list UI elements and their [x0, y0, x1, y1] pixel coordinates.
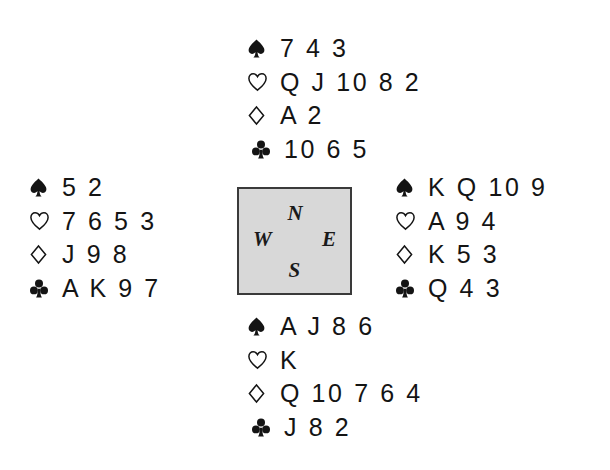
hand-north: 7 4 3 Q J 10 8 2 A 2 [248, 32, 421, 166]
hand-west-diamonds-row: J 9 8 [30, 238, 161, 272]
hand-north-diamonds: A 2 [278, 103, 324, 128]
hand-east-spades: K Q 10 9 [426, 175, 547, 200]
compass-letter-east: E [322, 229, 336, 250]
hand-west-hearts-row: 7 6 5 3 [30, 205, 161, 239]
hand-north-hearts-row: Q J 10 8 2 [248, 66, 421, 100]
heart-icon [248, 73, 278, 91]
compass-letter-south: S [288, 260, 300, 281]
hand-north-diamonds-row: A 2 [248, 99, 421, 133]
club-icon [252, 418, 282, 437]
club-icon [30, 279, 60, 298]
hand-south: A J 8 6 K Q 10 7 6 4 [248, 310, 423, 444]
spade-icon [248, 39, 278, 58]
compass-letter-west: W [253, 229, 272, 250]
hand-east-clubs: Q 4 3 [426, 276, 502, 301]
heart-icon [396, 212, 426, 230]
hand-south-diamonds-row: Q 10 7 6 4 [248, 377, 423, 411]
hand-west-diamonds: J 9 8 [60, 242, 129, 267]
hand-east-diamonds: K 5 3 [426, 242, 499, 267]
hand-south-spades: A J 8 6 [278, 314, 375, 339]
heart-icon [248, 351, 278, 369]
diamond-icon [248, 384, 278, 403]
hand-east-hearts-row: A 9 4 [396, 205, 547, 239]
hand-west-spades: 5 2 [60, 175, 105, 200]
club-icon [396, 279, 426, 298]
hand-north-clubs: 10 6 5 [282, 137, 369, 162]
hand-east-diamonds-row: K 5 3 [396, 238, 547, 272]
diamond-icon [248, 106, 278, 125]
hand-west-hearts: 7 6 5 3 [60, 209, 157, 234]
hand-west-clubs-row: A K 9 7 [30, 272, 161, 306]
hand-south-spades-row: A J 8 6 [248, 310, 423, 344]
bridge-deal-diagram: 7 4 3 Q J 10 8 2 A 2 [0, 0, 610, 470]
hand-west-spades-row: 5 2 [30, 171, 161, 205]
hand-north-clubs-row: 10 6 5 [252, 133, 421, 167]
hand-north-spades: 7 4 3 [278, 36, 349, 61]
hand-east-clubs-row: Q 4 3 [396, 272, 547, 306]
hand-north-hearts: Q J 10 8 2 [278, 70, 421, 95]
compass-letter-north: N [288, 203, 303, 224]
hand-west: 5 2 7 6 5 3 J 9 8 [30, 171, 161, 305]
hand-west-clubs: A K 9 7 [60, 276, 161, 301]
club-icon [252, 140, 282, 159]
hand-east: K Q 10 9 A 9 4 K 5 3 [396, 171, 547, 305]
hand-north-spades-row: 7 4 3 [248, 32, 421, 66]
spade-icon [30, 178, 60, 197]
spade-icon [396, 178, 426, 197]
hand-south-hearts-row: K [248, 344, 423, 378]
diamond-icon [30, 245, 60, 264]
heart-icon [30, 212, 60, 230]
hand-east-hearts: A 9 4 [426, 209, 498, 234]
hand-south-hearts: K [278, 348, 299, 373]
hand-south-clubs: J 8 2 [282, 415, 351, 440]
compass-box: N W E S [237, 187, 352, 295]
hand-south-diamonds: Q 10 7 6 4 [278, 381, 423, 406]
hand-south-clubs-row: J 8 2 [252, 411, 423, 445]
hand-east-spades-row: K Q 10 9 [396, 171, 547, 205]
spade-icon [248, 317, 278, 336]
diamond-icon [396, 245, 426, 264]
